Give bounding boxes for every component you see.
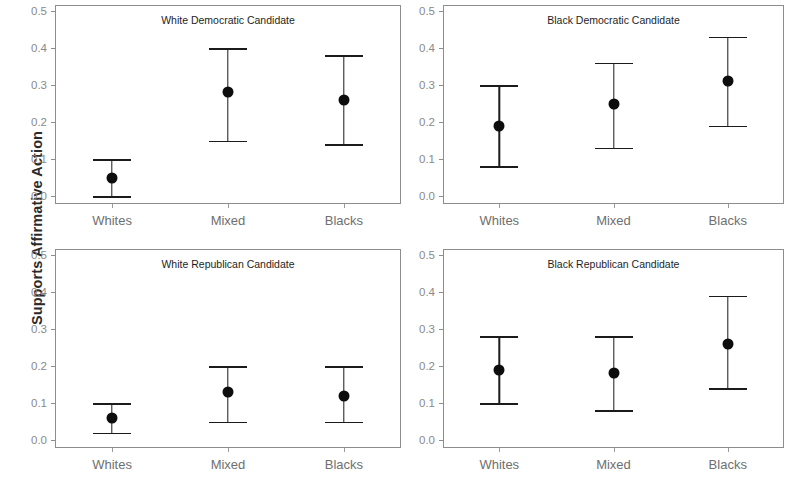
x-tick-label-mixed: Mixed	[596, 457, 631, 472]
x-tick-label-mixed: Mixed	[211, 213, 246, 228]
y-tick-label: 0.4	[399, 286, 435, 298]
x-tick-mark	[344, 448, 345, 452]
x-tick-label-whites: Whites	[479, 457, 519, 472]
error-bar-cap-upper	[595, 336, 633, 338]
y-tick-mark	[51, 196, 55, 197]
y-tick-mark	[51, 440, 55, 441]
y-tick-label: 0.1	[11, 153, 47, 165]
x-tick-mark	[728, 204, 729, 208]
data-point	[608, 98, 619, 109]
y-tick-label: 0.4	[399, 42, 435, 54]
panel-title: White Democratic Candidate	[55, 14, 401, 26]
y-tick-label: 0.4	[11, 286, 47, 298]
x-tick-label-blacks: Blacks	[325, 213, 363, 228]
x-tick-label-whites: Whites	[479, 213, 519, 228]
x-tick-mark	[112, 204, 113, 208]
y-tick-mark	[51, 255, 55, 256]
y-tick-label: 0.5	[399, 5, 435, 17]
y-tick-mark	[51, 159, 55, 160]
error-bar-cap-upper	[480, 336, 518, 338]
y-tick-label: 0.5	[399, 249, 435, 261]
y-tick-label: 0.1	[399, 397, 435, 409]
error-bar-cap-upper	[209, 366, 247, 368]
error-bar-cap-upper	[325, 366, 363, 368]
y-tick-label: 0.0	[11, 434, 47, 446]
y-tick-mark	[51, 122, 55, 123]
y-tick-mark	[439, 255, 443, 256]
x-tick-mark	[228, 204, 229, 208]
y-tick-label: 0.3	[11, 323, 47, 335]
data-point	[223, 87, 234, 98]
y-tick-label: 0.4	[11, 42, 47, 54]
y-tick-label: 0.1	[11, 397, 47, 409]
y-tick-label: 0.5	[11, 249, 47, 261]
y-tick-label: 0.2	[399, 360, 435, 372]
y-axis-title: Supports Affirmative Action	[29, 98, 45, 358]
y-tick-label: 0.2	[11, 116, 47, 128]
data-point	[722, 338, 733, 349]
x-tick-mark	[344, 204, 345, 208]
x-tick-label-mixed: Mixed	[596, 213, 631, 228]
y-tick-mark	[51, 292, 55, 293]
x-tick-mark	[499, 448, 500, 452]
figure-container: Supports Affirmative Action White Democr…	[0, 0, 788, 477]
y-tick-label: 0.0	[399, 434, 435, 446]
data-point	[722, 76, 733, 87]
error-bar-cap-lower	[709, 388, 747, 390]
y-tick-mark	[439, 11, 443, 12]
error-bar-cap-lower	[209, 141, 247, 143]
x-tick-mark	[614, 204, 615, 208]
error-bar-cap-upper	[595, 63, 633, 65]
y-tick-mark	[439, 329, 443, 330]
y-tick-mark	[51, 85, 55, 86]
y-tick-mark	[51, 11, 55, 12]
data-point	[107, 172, 118, 183]
y-tick-mark	[51, 403, 55, 404]
data-point	[494, 364, 505, 375]
error-bar-cap-upper	[325, 55, 363, 57]
x-tick-mark	[228, 448, 229, 452]
panel-title: Black Republican Candidate	[443, 258, 784, 270]
error-bar-cap-lower	[480, 166, 518, 168]
y-tick-label: 0.2	[399, 116, 435, 128]
error-bar-cap-lower	[709, 126, 747, 128]
error-bar-cap-upper	[209, 48, 247, 50]
x-tick-label-blacks: Blacks	[325, 457, 363, 472]
y-tick-label: 0.5	[11, 5, 47, 17]
y-tick-label: 0.3	[399, 323, 435, 335]
y-tick-mark	[51, 48, 55, 49]
y-tick-label: 0.2	[11, 360, 47, 372]
x-tick-mark	[728, 448, 729, 452]
y-tick-label: 0.0	[399, 190, 435, 202]
error-bar-cap-lower	[93, 196, 131, 198]
panel-title: White Republican Candidate	[55, 258, 401, 270]
data-point	[223, 386, 234, 397]
data-point	[608, 368, 619, 379]
error-bar-cap-lower	[480, 403, 518, 405]
error-bar-cap-upper	[709, 37, 747, 39]
data-point	[107, 412, 118, 423]
y-tick-mark	[51, 329, 55, 330]
y-tick-label: 0.0	[11, 190, 47, 202]
error-bar-cap-lower	[209, 422, 247, 424]
y-tick-mark	[439, 159, 443, 160]
x-tick-label-blacks: Blacks	[709, 213, 747, 228]
y-tick-label: 0.1	[399, 153, 435, 165]
error-bar-cap-upper	[480, 85, 518, 87]
y-tick-mark	[51, 366, 55, 367]
data-point	[338, 390, 349, 401]
y-tick-label: 0.3	[399, 79, 435, 91]
x-tick-label-blacks: Blacks	[709, 457, 747, 472]
y-tick-mark	[439, 85, 443, 86]
x-tick-mark	[614, 448, 615, 452]
x-tick-mark	[499, 204, 500, 208]
x-tick-label-whites: Whites	[92, 457, 132, 472]
y-tick-mark	[439, 366, 443, 367]
error-bar-cap-lower	[595, 148, 633, 150]
error-bar-cap-upper	[93, 403, 131, 405]
y-tick-mark	[439, 122, 443, 123]
data-point	[338, 94, 349, 105]
x-tick-mark	[112, 448, 113, 452]
error-bar-cap-lower	[595, 410, 633, 412]
error-bar-cap-upper	[709, 296, 747, 298]
